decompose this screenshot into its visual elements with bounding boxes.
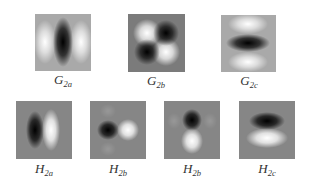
filter-image-h2a xyxy=(16,101,72,159)
filter-image-g2c xyxy=(221,15,276,72)
filter-image-g2a xyxy=(35,14,91,71)
label-h2b-2: H2b xyxy=(177,162,207,178)
label-h2a: H2a xyxy=(29,162,59,178)
label-g2c: G2c xyxy=(234,74,264,90)
label-h2b-1: H2b xyxy=(103,162,133,178)
filter-image-g2b xyxy=(128,14,185,72)
filter-image-h2c xyxy=(239,101,295,159)
filter-image-h2b-1 xyxy=(90,101,146,159)
label-h2c: H2c xyxy=(252,162,282,178)
label-g2b: G2b xyxy=(141,74,171,90)
label-g2a: G2a xyxy=(48,73,78,89)
filter-image-h2b-2 xyxy=(164,101,220,159)
